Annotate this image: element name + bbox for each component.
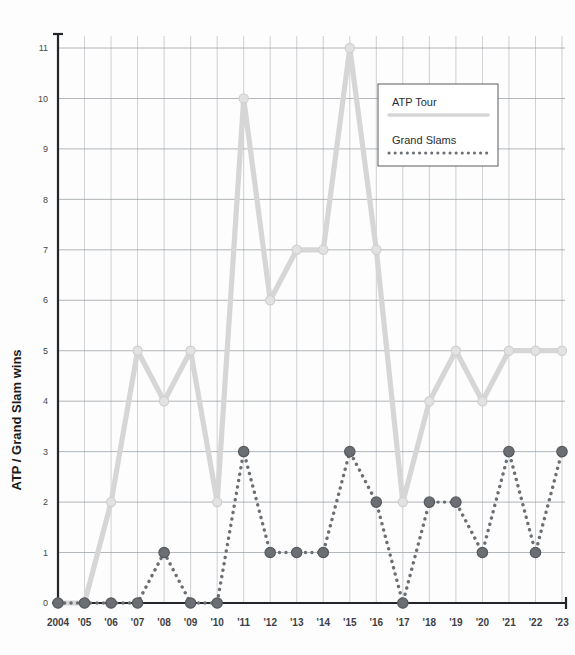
data-point[interactable] [477, 547, 487, 557]
data-point[interactable] [424, 497, 434, 507]
y-tick-label: 4 [43, 396, 48, 406]
y-tick-label: 11 [39, 43, 48, 53]
line-chart: 01234567891011 2004'05'06'07'08'09'10'11… [0, 0, 575, 655]
data-point[interactable] [106, 598, 116, 608]
data-point[interactable] [371, 497, 381, 507]
x-tick-label: '07 [131, 617, 145, 628]
data-point[interactable] [239, 446, 249, 456]
y-tick-label: 5 [43, 346, 48, 356]
x-tick-label: '16 [370, 617, 384, 628]
x-tick-label: '19 [449, 617, 463, 628]
chart-legend[interactable]: ATP TourGrand Slams [378, 84, 498, 166]
data-point[interactable] [530, 547, 540, 557]
data-point[interactable] [345, 446, 355, 456]
x-tick-label: 2004 [47, 617, 70, 628]
data-point[interactable] [398, 598, 408, 608]
x-tick-label: '11 [237, 617, 250, 628]
data-point[interactable] [318, 547, 328, 557]
data-point[interactable] [185, 598, 195, 608]
data-point[interactable] [79, 598, 89, 608]
x-tick-label: '20 [476, 617, 490, 628]
data-point[interactable] [319, 245, 328, 254]
data-point[interactable] [398, 498, 407, 507]
y-tick-label: 3 [43, 447, 48, 457]
y-axis-title-text: ATP / Grand Slam wins [9, 349, 24, 490]
data-point[interactable] [345, 43, 354, 52]
data-point[interactable] [451, 346, 460, 355]
data-point[interactable] [425, 397, 434, 406]
data-point[interactable] [531, 346, 540, 355]
data-point[interactable] [160, 397, 169, 406]
x-tick-label: '23 [555, 617, 569, 628]
chart-container: 01234567891011 2004'05'06'07'08'09'10'11… [0, 0, 575, 655]
y-tick-label: 1 [43, 548, 48, 558]
data-point[interactable] [451, 497, 461, 507]
y-tick-label: 6 [43, 295, 48, 305]
data-point[interactable] [372, 245, 381, 254]
y-tick-label: 8 [43, 195, 48, 205]
x-tick-label: '12 [263, 617, 277, 628]
legend-label-1: ATP Tour [392, 96, 437, 108]
x-tick-label: '06 [104, 617, 118, 628]
y-tick-label: 10 [38, 94, 48, 104]
y-tick-label: 2 [43, 497, 48, 507]
data-point[interactable] [212, 598, 222, 608]
data-point[interactable] [53, 598, 63, 608]
x-tick-label: '15 [343, 617, 357, 628]
y-axis-title: ATP / Grand Slam wins [9, 349, 24, 490]
data-point[interactable] [266, 296, 275, 305]
y-tick-label: 9 [43, 144, 48, 154]
x-tick-label: '08 [157, 617, 171, 628]
data-point[interactable] [213, 498, 222, 507]
data-point[interactable] [504, 446, 514, 456]
x-tick-label: '10 [210, 617, 224, 628]
data-point[interactable] [132, 598, 142, 608]
x-tick-label: '09 [184, 617, 198, 628]
data-point[interactable] [504, 346, 513, 355]
y-tick-label: 0 [43, 598, 48, 608]
data-point[interactable] [265, 547, 275, 557]
data-point[interactable] [239, 94, 248, 103]
x-tick-label: '17 [396, 617, 410, 628]
data-point[interactable] [478, 397, 487, 406]
x-tick-label: '21 [502, 617, 516, 628]
x-tick-label: '05 [78, 617, 92, 628]
data-point[interactable] [557, 446, 567, 456]
legend-label-2: Grand Slams [392, 134, 457, 146]
data-point[interactable] [107, 498, 116, 507]
x-tick-label: '13 [290, 617, 304, 628]
data-point[interactable] [292, 547, 302, 557]
data-point[interactable] [159, 547, 169, 557]
data-point[interactable] [557, 346, 566, 355]
x-tick-label: '18 [423, 617, 437, 628]
data-point[interactable] [133, 346, 142, 355]
data-point[interactable] [186, 346, 195, 355]
x-tick-label: '14 [317, 617, 331, 628]
y-tick-label: 7 [43, 245, 48, 255]
data-point[interactable] [292, 245, 301, 254]
x-tick-label: '22 [529, 617, 543, 628]
